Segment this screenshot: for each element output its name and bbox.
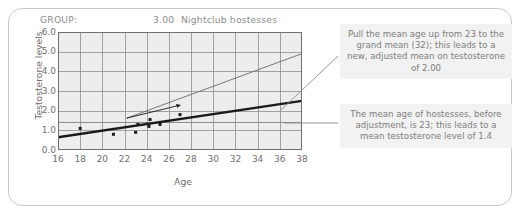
x-tick-label: 24: [136, 154, 158, 164]
group-name: Nightclub hostesses: [181, 14, 277, 25]
data-point: [134, 131, 137, 134]
y-tick-label: 1.0: [30, 126, 56, 135]
x-tick-label: 16: [47, 154, 69, 164]
chart-header: GROUP: 3.00 Nightclub hostesses: [18, 14, 318, 30]
x-tick-label: 30: [202, 154, 224, 164]
plot-area: [58, 32, 302, 150]
data-point: [149, 118, 152, 121]
plot-svg: [58, 32, 302, 150]
x-tick-label: 34: [247, 154, 269, 164]
callout-unadjusted-mean: The mean age of hostesses, before adjust…: [340, 104, 512, 148]
data-point: [147, 125, 150, 128]
data-point: [112, 133, 115, 136]
group-label: GROUP:: [40, 14, 77, 25]
x-tick-label: 32: [224, 154, 246, 164]
callout-adjusted-mean: Pull the mean age up from 23 to the gran…: [340, 24, 512, 79]
y-tick-label: 4.0: [30, 67, 56, 76]
x-tick-label: 28: [180, 154, 202, 164]
x-tick-label: 20: [91, 154, 113, 164]
x-tick-label: 18: [69, 154, 91, 164]
screenshot-root: GROUP: 3.00 Nightclub hostesses Testoste…: [0, 0, 526, 220]
data-point: [159, 123, 162, 126]
x-tick-label: 26: [158, 154, 180, 164]
x-tick-label: 36: [269, 154, 291, 164]
x-tick-label: 38: [291, 154, 313, 164]
x-axis-title: Age: [58, 176, 308, 187]
data-point: [179, 113, 182, 116]
data-point: [79, 127, 82, 130]
y-tick-label: 2.0: [30, 106, 56, 115]
y-tick-label: 5.0: [30, 47, 56, 56]
data-point: [136, 123, 139, 126]
x-axis-ticks: 161820222426283032343638: [58, 154, 302, 168]
y-tick-label: 6.0: [30, 28, 56, 37]
group-code: 3.00: [153, 14, 174, 25]
y-axis-ticks: 0.01.02.03.04.05.06.0: [26, 32, 56, 150]
x-tick-label: 22: [114, 154, 136, 164]
y-tick-label: 3.0: [30, 87, 56, 96]
regression-chart: GROUP: 3.00 Nightclub hostesses Testoste…: [18, 14, 318, 194]
